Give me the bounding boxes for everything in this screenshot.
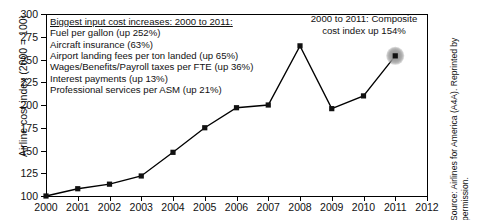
data-series-svg [0,0,478,220]
data-point-marker [75,186,80,191]
data-point-marker [266,102,271,107]
data-point-marker [234,105,239,110]
series-line-airline-cost-index [46,46,395,196]
data-point-marker [329,106,334,111]
data-point-marker [139,173,144,178]
data-point-marker [361,93,366,98]
data-point-marker [297,43,302,48]
data-point-marker [393,53,398,58]
source-note: Source: Airlines for America (A4A). Repr… [449,6,470,220]
data-point-marker [43,193,48,198]
data-point-marker [202,125,207,130]
data-point-marker [107,182,112,187]
series-markers [43,43,404,198]
chart-container: Airline cost index (2000 = 100) 10012515… [0,0,478,220]
data-point-marker [170,150,175,155]
